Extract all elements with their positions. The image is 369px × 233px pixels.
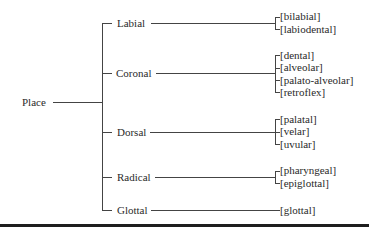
branch-label: Labial [117, 17, 145, 29]
value-label: [dental] [280, 49, 314, 61]
value-label: [velar] [280, 125, 309, 137]
root-label: Place [22, 96, 46, 108]
branch-label: Glottal [117, 204, 148, 216]
value-label: [alveolar] [280, 61, 323, 73]
branch-label: Radical [117, 171, 151, 183]
branch-glottal: Glottal [glottal] [102, 204, 315, 216]
branch-label: Dorsal [117, 126, 146, 138]
place-feature-tree: Place Labial [bilabial] [labiodental] Co… [0, 0, 369, 233]
value-label: [epiglottal] [280, 177, 329, 189]
value-label: [bilabial] [280, 10, 320, 22]
bottom-rule [0, 224, 369, 227]
value-label: [glottal] [280, 204, 315, 216]
value-label: [retroflex] [280, 86, 325, 98]
value-label: [labiodental] [280, 23, 336, 35]
branch-dorsal: Dorsal [palatal] [velar] [uvular] [102, 113, 317, 150]
value-label: [palatal] [280, 113, 317, 125]
branch-coronal: Coronal [dental] [alveolar] [palato-alve… [102, 49, 353, 98]
branch-labial: Labial [bilabial] [labiodental] [102, 10, 336, 35]
branch-label: Coronal [116, 67, 151, 79]
value-label: [pharyngeal] [280, 164, 336, 176]
branch-radical: Radical [pharyngeal] [epiglottal] [102, 164, 336, 189]
value-label: [palato-alveolar] [280, 74, 353, 86]
value-label: [uvular] [280, 138, 315, 150]
